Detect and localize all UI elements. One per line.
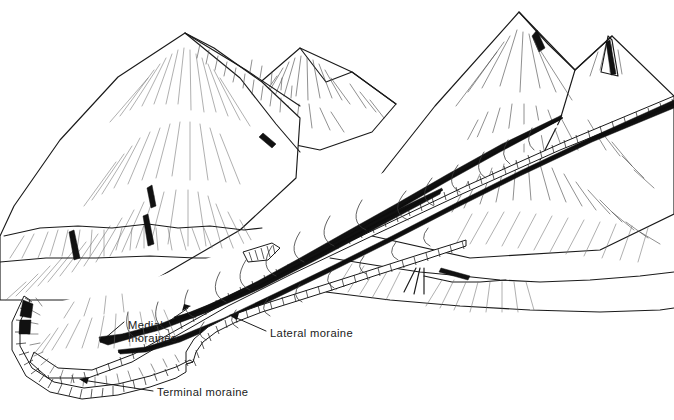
figure-canvas: Medial moraines Lateral moraine Terminal… — [0, 0, 674, 420]
label-lateral: Lateral moraine — [270, 327, 353, 339]
label-terminal: Terminal moraine — [157, 386, 248, 398]
label-medial-line1: Medial — [128, 319, 163, 331]
glacier-moraine-figure: Medial moraines Lateral moraine Terminal… — [0, 0, 674, 420]
label-medial-line2: moraines — [128, 332, 177, 344]
